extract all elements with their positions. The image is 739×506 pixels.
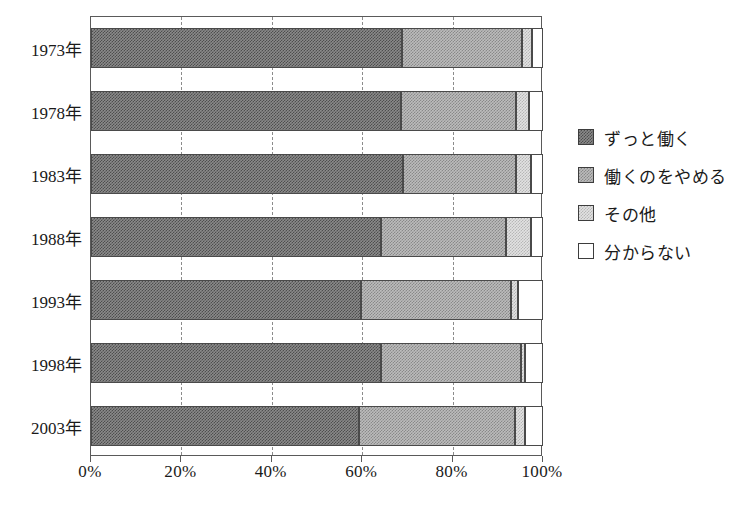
legend-item: その他 <box>578 194 738 232</box>
x-axis-tick-label: 80% <box>436 462 468 482</box>
y-axis-label: 2003年 <box>0 414 82 439</box>
legend-swatch-icon <box>578 167 594 183</box>
y-axis-label: 1973年 <box>0 36 82 61</box>
bar-segment <box>381 343 521 383</box>
bar-segment <box>529 91 543 131</box>
bar-segment <box>359 406 515 446</box>
bar-segment <box>518 280 543 320</box>
x-axis-tick-label: 60% <box>345 462 377 482</box>
bar-segment <box>381 217 506 257</box>
legend-item: 働くのをやめる <box>578 156 738 194</box>
legend-item: ずっと働く <box>578 118 738 156</box>
bar-segment <box>361 280 511 320</box>
bar-segment <box>401 91 516 131</box>
bar-row <box>91 154 541 194</box>
bar-segment <box>531 154 543 194</box>
x-axis-tick-label: 20% <box>164 462 196 482</box>
bar-segment <box>516 154 531 194</box>
bar-segment <box>91 28 402 68</box>
legend-swatch-icon <box>578 243 594 259</box>
bar-row <box>91 406 541 446</box>
bar-segment <box>522 28 532 68</box>
plot-area <box>90 16 542 456</box>
legend-item-label: 分からない <box>604 239 692 264</box>
bar-segment <box>91 280 361 320</box>
bar-segment <box>91 217 381 257</box>
y-axis-label: 1998年 <box>0 351 82 376</box>
x-axis-tick-label: 0% <box>78 462 101 482</box>
bar-segment <box>531 217 543 257</box>
legend-item-label: 働くのをやめる <box>604 163 727 188</box>
legend-swatch-icon <box>578 205 594 221</box>
bar-segment <box>525 343 543 383</box>
bar-segment <box>91 406 359 446</box>
bar-segment <box>515 406 525 446</box>
bar-segment <box>525 406 543 446</box>
y-axis-label: 1993年 <box>0 288 82 313</box>
bar-row <box>91 343 541 383</box>
stacked-bar-chart: 1973年1978年1983年1988年1993年1998年2003年 0%20… <box>0 0 739 506</box>
bar-segment <box>91 154 403 194</box>
legend-item-label: ずっと働く <box>604 125 692 150</box>
legend: ずっと働く働くのをやめるその他分からない <box>578 118 738 270</box>
y-axis-label: 1978年 <box>0 99 82 124</box>
bar-segment <box>402 28 522 68</box>
bar-row <box>91 217 541 257</box>
bar-row <box>91 91 541 131</box>
bar-segment <box>91 91 401 131</box>
bar-segment <box>506 217 531 257</box>
x-axis-tick-label: 100% <box>522 462 563 482</box>
legend-item: 分からない <box>578 232 738 270</box>
bar-segment <box>516 91 529 131</box>
x-axis-tick-label: 40% <box>255 462 287 482</box>
bar-segment <box>532 28 543 68</box>
legend-swatch-icon <box>578 129 594 145</box>
y-axis-label: 1983年 <box>0 162 82 187</box>
legend-item-label: その他 <box>604 201 657 226</box>
y-axis-label: 1988年 <box>0 225 82 250</box>
bar-segment <box>511 280 518 320</box>
bar-segment <box>91 343 381 383</box>
bar-row <box>91 280 541 320</box>
bar-segment <box>403 154 516 194</box>
bar-row <box>91 28 541 68</box>
